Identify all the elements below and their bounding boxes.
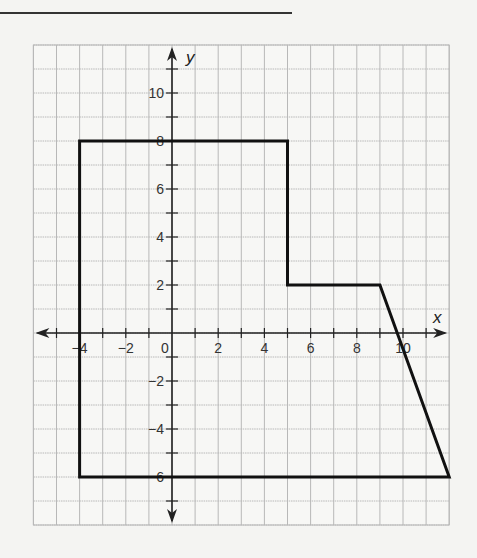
x-tick-label: 8 xyxy=(353,340,361,356)
y-tick-label: −2 xyxy=(148,373,164,389)
x-tick-label: 6 xyxy=(307,340,315,356)
x-tick-label: 0 xyxy=(161,340,169,356)
y-tick-label: 6 xyxy=(156,181,164,197)
coordinate-grid-chart: −4−20246810108642−2−4−6yx xyxy=(0,0,477,558)
y-axis-label: y xyxy=(185,48,196,67)
x-tick-label: −2 xyxy=(118,340,134,356)
y-tick-label: 10 xyxy=(148,85,164,101)
x-tick-label: 4 xyxy=(261,340,269,356)
y-tick-label: 4 xyxy=(156,229,164,245)
y-tick-label: −4 xyxy=(148,421,164,437)
y-tick-label: 2 xyxy=(156,277,164,293)
x-axis-label: x xyxy=(432,308,442,327)
x-tick-label: 2 xyxy=(214,340,222,356)
